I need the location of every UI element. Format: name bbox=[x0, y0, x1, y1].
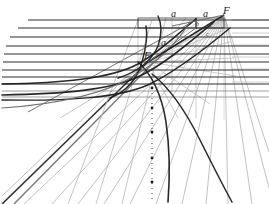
focus-ray-ray-11 bbox=[224, 15, 269, 188]
diagonal-diag-main-3 bbox=[2, 66, 138, 196]
layer-right-grid bbox=[232, 20, 269, 82]
diagonal-diag-down-1 bbox=[68, 20, 138, 204]
marker-dot-dot-5 bbox=[151, 181, 154, 184]
marker-dot-dot-3 bbox=[151, 131, 154, 134]
focus-ray-ray-10 bbox=[224, 15, 252, 204]
focus-ray-ray-8 bbox=[206, 15, 224, 204]
diagram-svg bbox=[0, 0, 269, 204]
marker-dot-dot-1 bbox=[151, 87, 154, 90]
geometric-diagram-canvas: aaaFFbcc bbox=[0, 0, 269, 204]
inner-focus-ray-sray-8 bbox=[148, 62, 210, 104]
marker-dot-dot-4 bbox=[151, 157, 154, 160]
marker-dot-dot-2 bbox=[151, 107, 154, 110]
focus-ray-ray-1 bbox=[24, 15, 224, 204]
diagonal-diag-up-2 bbox=[60, 18, 224, 118]
